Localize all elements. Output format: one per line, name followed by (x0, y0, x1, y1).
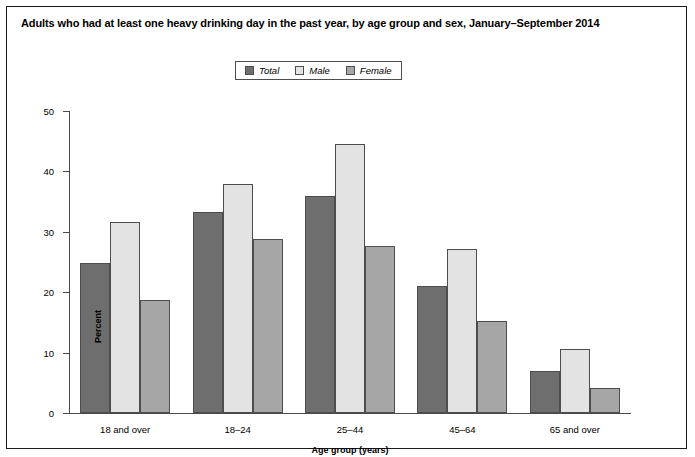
y-axis-tick: 40 (63, 171, 69, 172)
bar-female[interactable] (365, 246, 395, 413)
legend-label: Female (360, 65, 392, 76)
bar-male[interactable] (560, 349, 590, 413)
y-axis-tick-label: 0 (49, 408, 54, 419)
bar-male[interactable] (447, 249, 477, 413)
bar-group: 45–64 (417, 111, 507, 413)
x-axis-title: Age group (years) (69, 445, 631, 455)
bar-total[interactable] (530, 371, 560, 413)
x-axis-group-label: 65 and over (550, 424, 600, 435)
bar-group: 18 and over (80, 111, 170, 413)
y-axis-tick-label: 20 (43, 287, 54, 298)
legend-swatch-icon (245, 66, 254, 75)
bar-female[interactable] (477, 321, 507, 413)
bar-female[interactable] (140, 300, 170, 413)
bar-female[interactable] (253, 239, 283, 413)
legend-label: Total (259, 65, 279, 76)
y-axis-tick-label: 50 (43, 106, 54, 117)
y-axis-line (69, 111, 70, 414)
x-axis-group-label: 25–44 (337, 424, 363, 435)
chart-title: Adults who had at least one heavy drinki… (21, 17, 599, 29)
legend-label: Male (309, 65, 330, 76)
chart-figure: Adults who had at least one heavy drinki… (6, 6, 687, 449)
legend-entry-female[interactable]: Female (346, 65, 392, 76)
y-axis-tick: 0 (63, 413, 69, 414)
y-axis-tick-label: 40 (43, 166, 54, 177)
bar-group: 25–44 (305, 111, 395, 413)
y-axis-title: Percent (93, 310, 103, 343)
plot-area: 01020304050 18 and over18–2425–4445–6465… (69, 105, 631, 414)
bar-group: 65 and over (530, 111, 620, 413)
x-axis-line (69, 413, 631, 414)
y-axis-tick: 20 (63, 292, 69, 293)
bar-group: 18–24 (193, 111, 283, 413)
bar-male[interactable] (335, 144, 365, 413)
y-axis-tick-label: 10 (43, 347, 54, 358)
legend-swatch-icon (295, 66, 304, 75)
bar-total[interactable] (417, 286, 447, 413)
legend-entry-male[interactable]: Male (295, 65, 330, 76)
bar-male[interactable] (110, 222, 140, 413)
legend-entry-total[interactable]: Total (245, 65, 279, 76)
y-axis-tick-label: 30 (43, 226, 54, 237)
y-axis-tick: 30 (63, 232, 69, 233)
bar-male[interactable] (223, 184, 253, 413)
bar-total[interactable] (305, 196, 335, 413)
x-axis-group-label: 45–64 (449, 424, 475, 435)
x-axis-group-label: 18 and over (100, 424, 150, 435)
y-axis-tick: 50 (63, 111, 69, 112)
bar-total[interactable] (193, 212, 223, 413)
y-axis-tick: 10 (63, 353, 69, 354)
legend-swatch-icon (346, 66, 355, 75)
bar-female[interactable] (590, 388, 620, 413)
chart-legend: TotalMaleFemale (235, 61, 402, 80)
x-axis-group-label: 18–24 (224, 424, 250, 435)
